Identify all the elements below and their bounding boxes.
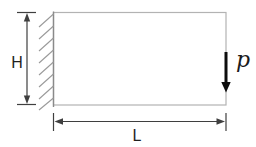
- arrow-up-icon: [24, 13, 30, 22]
- load-label: p: [236, 47, 250, 72]
- wall-hatching-icon: [39, 14, 54, 110]
- cantilever-plate-diagram: H L p: [0, 0, 256, 147]
- arrow-left-icon: [55, 118, 64, 124]
- plate-outline: [54, 13, 227, 106]
- load-arrow-icon: [221, 52, 230, 93]
- height-label: H: [11, 54, 23, 71]
- length-label: L: [133, 127, 142, 144]
- arrow-right-icon: [217, 118, 226, 124]
- diagram-svg: H L p: [0, 0, 256, 147]
- arrow-down-icon: [24, 96, 30, 105]
